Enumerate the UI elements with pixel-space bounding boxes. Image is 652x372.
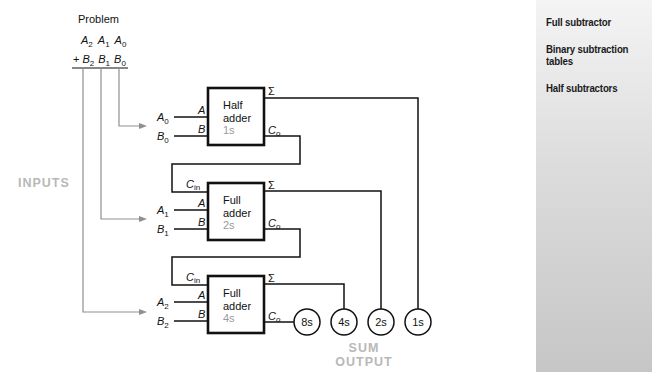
svg-text:adder: adder xyxy=(223,207,251,219)
output-8s: 8s xyxy=(294,309,320,335)
arrow-icon xyxy=(139,216,147,222)
input-arrowheads xyxy=(139,123,147,315)
svg-text:4s: 4s xyxy=(338,316,350,328)
svg-text:A: A xyxy=(197,289,205,301)
svg-text:B: B xyxy=(198,123,205,135)
adder-type-line1: Half xyxy=(223,99,244,111)
svg-text:B: B xyxy=(198,216,205,228)
problem-title: Problem xyxy=(78,13,119,25)
input-routing xyxy=(83,68,140,312)
sum-output-label-line1: SUM xyxy=(349,341,380,355)
input-label-b0: B0 xyxy=(157,130,169,145)
sidebar-item-half-subtractors: Half subtractors xyxy=(546,82,650,94)
svg-text:Full: Full xyxy=(223,194,241,206)
margin-sidebar: Full subtractor Binary subtraction table… xyxy=(536,0,652,372)
carry-in-label: Cin xyxy=(186,178,200,192)
output-2s: 2s xyxy=(368,309,394,335)
sidebar-item-full-subtractor: Full subtractor xyxy=(546,16,650,28)
input-route-bit2 xyxy=(83,68,140,312)
sum-outputs: 8s 4s 2s 1s xyxy=(294,309,431,335)
svg-text:Σ: Σ xyxy=(268,179,275,191)
svg-text:2s: 2s xyxy=(375,316,387,328)
adder-2s: Full adder 2s A B A1 B1 Cin Σ Co xyxy=(156,178,281,240)
svg-text:8s: 8s xyxy=(301,316,313,328)
svg-text:A: A xyxy=(197,104,205,116)
svg-text:A2A1A0: A2A1A0 xyxy=(80,34,127,49)
output-1s: 1s xyxy=(405,309,431,335)
input-route-bit0 xyxy=(119,68,140,126)
output-4s: 4s xyxy=(331,309,357,335)
svg-text:4s: 4s xyxy=(223,312,235,324)
input-label-a0: A0 xyxy=(156,111,169,126)
inputs-label: INPUTS xyxy=(18,176,70,190)
svg-text:+B2B1B0: +B2B1B0 xyxy=(73,53,126,68)
adder-type-line2: adder xyxy=(223,112,251,124)
input-label-a1: A1 xyxy=(156,204,169,219)
svg-text:A: A xyxy=(197,197,205,209)
problem-row-b: +B2B1B0 xyxy=(73,53,126,68)
input-label-b2: B2 xyxy=(157,315,169,330)
sum-wire-2s xyxy=(264,191,381,309)
adder-weight: 1s xyxy=(223,124,235,136)
arrow-icon xyxy=(139,123,147,129)
sum-wire-4s xyxy=(264,284,344,309)
binary-adder-diagram: Problem A2A1A0 +B2B1B0 INPUTS Half adder… xyxy=(0,0,536,372)
input-label-a2: A2 xyxy=(156,296,169,311)
sum-wire-1s xyxy=(264,98,418,309)
sum-pin-label: Σ xyxy=(268,85,275,97)
problem-row-a: A2A1A0 xyxy=(80,34,127,49)
adder-4s: Full adder 4s A B A2 B2 Cin Σ Co xyxy=(156,271,281,333)
svg-text:Cin: Cin xyxy=(186,271,200,285)
svg-text:Full: Full xyxy=(223,287,241,299)
sidebar-item-binary-subtraction-tables: Binary subtraction tables xyxy=(546,43,650,67)
input-label-b1: B1 xyxy=(157,223,169,238)
adder-1s: Half adder 1s A B A0 B0 Σ Co xyxy=(156,85,281,145)
svg-text:2s: 2s xyxy=(223,219,235,231)
svg-text:B: B xyxy=(198,308,205,320)
svg-text:1s: 1s xyxy=(412,316,424,328)
sum-output-label-line2: OUTPUT xyxy=(335,355,392,369)
input-route-bit1 xyxy=(101,68,140,219)
svg-text:Σ: Σ xyxy=(268,272,275,284)
arrow-icon xyxy=(139,309,147,315)
svg-text:adder: adder xyxy=(223,300,251,312)
